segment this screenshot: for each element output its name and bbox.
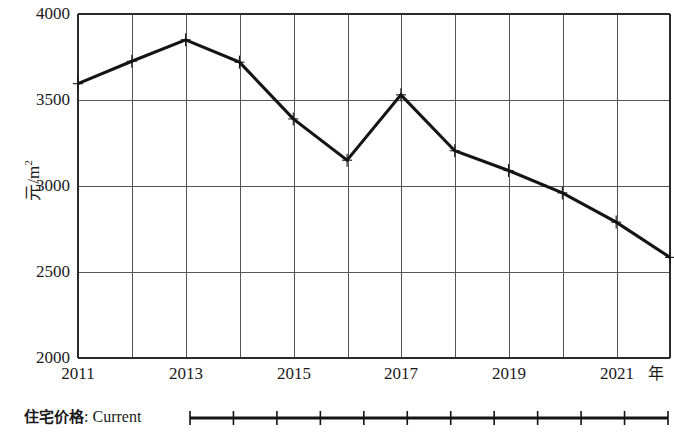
x-tick-2013: 2013: [151, 365, 221, 382]
legend-swatch: [190, 411, 668, 425]
legend-label-latin: Current: [92, 408, 141, 425]
data-point-marker: [665, 251, 674, 264]
x-tick-2019: 2019: [474, 365, 544, 382]
x-tick-2021: 2021: [582, 365, 652, 382]
data-point-marker: [611, 216, 621, 229]
legend-sample-line: [184, 405, 674, 431]
legend-label-cjk: 住宅价格: [24, 408, 84, 426]
x-tick-2015: 2015: [259, 365, 329, 382]
legend: 住宅价格: Current: [24, 409, 141, 425]
data-point-marker: [181, 33, 191, 46]
x-tick-2017: 2017: [366, 365, 436, 382]
series-residential-price: [73, 33, 674, 264]
chart-figure: 元/m2 4000 3500 3000 2500 2000: [0, 0, 674, 433]
series-line: [78, 40, 670, 258]
data-point-marker: [557, 186, 567, 199]
data-point-marker: [504, 164, 514, 177]
data-point-marker: [73, 77, 83, 90]
series-markers: [73, 33, 674, 264]
x-tick-2011: 2011: [43, 365, 113, 382]
data-point-marker: [127, 55, 137, 68]
grid-lines: [78, 14, 670, 358]
x-axis-unit-label: 年: [648, 366, 664, 382]
